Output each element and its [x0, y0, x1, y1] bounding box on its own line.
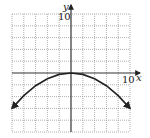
x-axis-label: x: [136, 72, 142, 83]
y-max-label: 10: [58, 11, 71, 22]
parabola-graph: y 10 10 x: [0, 0, 150, 138]
x-max-label: 10: [122, 74, 135, 85]
